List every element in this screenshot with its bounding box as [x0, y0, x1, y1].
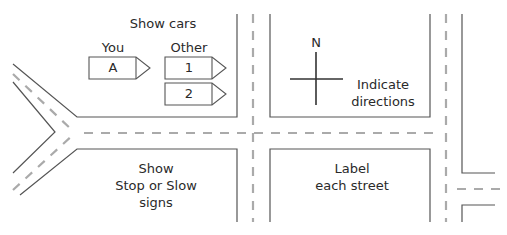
junction-inner [13, 82, 55, 173]
signs-line-1: Show [115, 160, 197, 177]
streets-line-2: each street [315, 177, 389, 194]
show-cars-label: Show cars [130, 15, 196, 32]
car-1-icon [165, 57, 226, 79]
other-label: Other [171, 39, 208, 56]
car-2-icon [165, 83, 226, 105]
signs-line-2: Stop or Slow [115, 177, 197, 194]
block-far-right-upper [462, 14, 495, 173]
you-label: You [102, 39, 124, 56]
directions-line-2: directions [351, 93, 415, 110]
car-1-label: 1 [185, 60, 193, 76]
street-map [0, 0, 507, 235]
car-a-label: A [109, 60, 118, 76]
signs-line-3: signs [115, 194, 197, 211]
directions-line-1: Indicate [351, 76, 415, 93]
dash-upper-diagonal [13, 74, 74, 132]
compass-north-label: N [311, 34, 321, 51]
car-2-label: 2 [185, 86, 193, 102]
label-streets-label: Label each street [315, 160, 389, 194]
car-a-icon [89, 57, 150, 79]
compass-icon [290, 52, 343, 105]
block-far-right-lower [462, 205, 495, 222]
streets-line-1: Label [315, 160, 389, 177]
indicate-directions-label: Indicate directions [351, 76, 415, 110]
center-dashes [13, 14, 500, 222]
stop-slow-signs-label: Show Stop or Slow signs [115, 160, 197, 211]
